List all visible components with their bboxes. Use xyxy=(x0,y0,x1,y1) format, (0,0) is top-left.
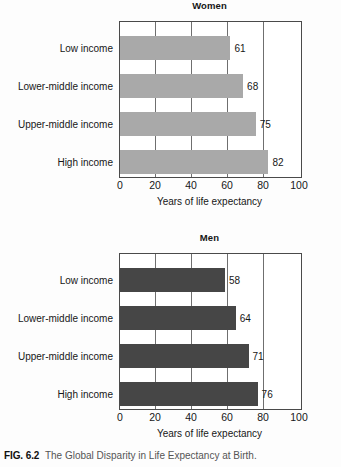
bar-men-low-income xyxy=(120,268,225,292)
category-label: Upper-middle income xyxy=(18,351,113,362)
bar-value-label: 71 xyxy=(249,351,264,362)
x-axis-men: 0 20 40 60 80 100 xyxy=(119,411,300,427)
figure-caption-text: The Global Disparity in Life Expectancy … xyxy=(45,450,257,461)
bar-value-label: 76 xyxy=(258,389,273,400)
x-tick-label: 80 xyxy=(257,179,269,191)
bar-value-label: 75 xyxy=(256,119,271,130)
x-tick-label: 60 xyxy=(221,179,233,191)
bar-value-label: 64 xyxy=(236,313,251,324)
bar-men-lower-middle-income xyxy=(120,306,236,330)
bar-value-label: 82 xyxy=(268,157,283,168)
category-label: High income xyxy=(57,389,113,400)
bar-women-upper-middle-income xyxy=(120,112,256,136)
bar-rows-men: Low income 58 Lower-middle income 64 Upp… xyxy=(120,254,301,409)
x-tick-label: 20 xyxy=(149,179,161,191)
x-tick-label: 20 xyxy=(149,411,161,423)
x-tick-label: 60 xyxy=(221,411,233,423)
x-axis-women: 0 20 40 60 80 100 xyxy=(119,179,300,195)
x-tick-label: 100 xyxy=(290,411,308,423)
x-tick-label: 100 xyxy=(290,179,308,191)
bar-value-label: 68 xyxy=(243,81,258,92)
x-tick-label: 0 xyxy=(117,411,123,423)
category-label: High income xyxy=(57,157,113,168)
bar-women-low-income xyxy=(120,36,230,60)
bar-men-upper-middle-income xyxy=(120,344,249,368)
bar-men-high-income xyxy=(120,382,258,406)
bar-value-label: 61 xyxy=(230,43,245,54)
plot-area-women: Low income 61 Lower-middle income 68 Upp… xyxy=(119,21,302,178)
category-label: Lower-middle income xyxy=(18,81,113,92)
x-tick-label: 80 xyxy=(257,411,269,423)
bar-women-high-income xyxy=(120,150,268,174)
category-label: Low income xyxy=(60,43,113,54)
x-tick-label: 0 xyxy=(117,179,123,191)
bar-rows-women: Low income 61 Lower-middle income 68 Upp… xyxy=(120,22,301,177)
x-axis-title-women: Years of life expectancy xyxy=(119,196,300,207)
figure-caption: FIG. 6.2 The Global Disparity in Life Ex… xyxy=(4,449,338,462)
bar-women-lower-middle-income xyxy=(120,74,243,98)
category-label: Low income xyxy=(60,275,113,286)
bar-value-label: 58 xyxy=(225,275,240,286)
figure-caption-tag: FIG. 6.2 xyxy=(4,450,39,461)
category-label: Upper-middle income xyxy=(18,119,113,130)
chart-panel-women: Women Low income 61 Lower-middle income … xyxy=(0,0,341,228)
chart-title-women: Women xyxy=(119,0,300,11)
x-tick-label: 40 xyxy=(185,179,197,191)
chart-panel-men: Men Low income 58 Lower-middle income 64 xyxy=(0,232,341,444)
figure-6-2: Women Low income 61 Lower-middle income … xyxy=(0,0,341,467)
category-label: Lower-middle income xyxy=(18,313,113,324)
plot-area-men: Low income 58 Lower-middle income 64 Upp… xyxy=(119,253,302,410)
x-axis-title-men: Years of life expectancy xyxy=(119,428,300,439)
chart-title-men: Men xyxy=(119,232,300,243)
x-tick-label: 40 xyxy=(185,411,197,423)
